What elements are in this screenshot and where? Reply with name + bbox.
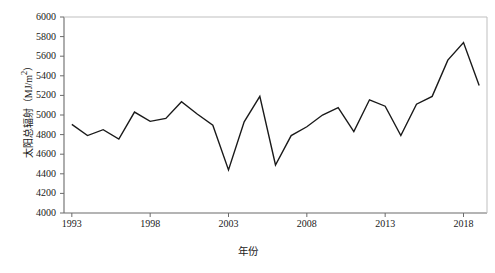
axis-lines — [64, 17, 487, 213]
solar-radiation-line-chart: 太阳总辐射（MJ/m2） 400042004400460048005000520… — [0, 0, 495, 273]
y-axis-ticks — [60, 17, 64, 213]
plot-area — [0, 0, 495, 273]
x-axis-ticks — [72, 213, 464, 217]
data-series-line — [72, 42, 479, 169]
